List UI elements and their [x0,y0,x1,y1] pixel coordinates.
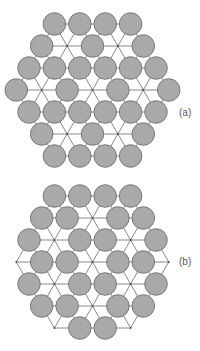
vacant-site-node [54,327,56,329]
sphere-atom [94,185,117,208]
sphere-atom [69,229,92,252]
sphere-atom [132,207,155,230]
sphere-atom [107,207,130,230]
sphere-atom [94,57,117,80]
panel-a-lattice [5,13,180,168]
sphere-atom [94,317,117,340]
vacant-site-node [66,45,68,47]
panel-b-lattice [15,185,169,340]
sphere-atom [43,13,66,36]
vacant-site-node [130,327,132,329]
sphere-atom [30,295,53,318]
sphere-atom [119,185,142,208]
vacant-site-node [117,45,119,47]
sphere-atom [132,295,155,318]
sphere-atom [18,57,41,80]
sphere-atom [119,145,142,168]
sphere-atom [69,13,92,36]
vacant-site-node [117,133,119,135]
sphere-atom [69,101,92,124]
sphere-atom [132,251,155,274]
sphere-atom [30,123,53,146]
vacant-site-node [15,261,17,263]
sphere-atom [145,57,168,80]
sphere-atom [56,251,79,274]
vacant-site-node [54,239,56,241]
sphere-atom [56,79,79,102]
sphere-atom [30,251,53,274]
sphere-atom [18,273,41,296]
vacant-site-node [41,89,43,91]
sphere-atom [81,123,104,146]
sphere-atom [69,185,92,208]
vacant-site-node [92,305,94,307]
sphere-atom [81,35,104,58]
sphere-atom [18,101,41,124]
vacant-site-node [130,283,132,285]
sphere-atom [107,251,130,274]
sphere-atom [132,123,155,146]
sphere-atom [43,185,66,208]
sphere-atom [94,273,117,296]
sphere-atom [119,101,142,124]
sphere-atom [145,101,168,124]
vacant-site-node [92,261,94,263]
sphere-atom [145,273,168,296]
sphere-atom [56,207,79,230]
sphere-atom [145,229,168,252]
vacant-site-node [168,261,170,263]
sphere-atom [119,57,142,80]
sphere-atom [94,13,117,36]
sphere-atom [43,101,66,124]
sphere-atom [94,229,117,252]
panel-b-label: (b) [179,256,191,267]
sphere-atom [18,229,41,252]
sphere-atom [119,13,142,36]
vacant-site-node [130,239,132,241]
sphere-atom [69,145,92,168]
sphere-atom [107,295,130,318]
sphere-atom [43,57,66,80]
panel-a-label: (a) [179,107,191,118]
vacant-site-node [66,133,68,135]
sphere-atom [56,295,79,318]
vacant-site-node [54,283,56,285]
lattice-figure [0,0,200,351]
vacant-site-node [92,217,94,219]
sphere-atom [43,145,66,168]
sphere-atom [30,35,53,58]
sphere-atom [69,273,92,296]
vacant-site-node [142,89,144,91]
sphere-atom [69,57,92,80]
vacant-site-node [92,89,94,91]
sphere-atom [69,317,92,340]
sphere-atom [5,79,28,102]
sphere-atom [94,101,117,124]
sphere-atom [132,35,155,58]
sphere-atom [107,79,130,102]
sphere-atom [157,79,180,102]
sphere-atom [94,145,117,168]
sphere-atom [30,207,53,230]
